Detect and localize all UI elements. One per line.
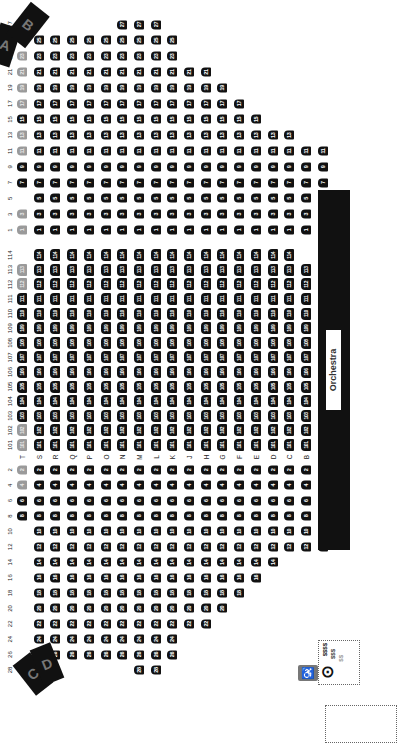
- seat[interactable]: 13: [284, 131, 294, 140]
- seat[interactable]: 15: [251, 115, 261, 124]
- seat[interactable]: 113: [234, 264, 244, 276]
- seat[interactable]: 107: [34, 351, 44, 363]
- seat[interactable]: 6: [50, 496, 60, 505]
- seat[interactable]: 104: [84, 395, 94, 407]
- seat[interactable]: 110: [268, 308, 278, 320]
- seat[interactable]: 101: [67, 439, 77, 451]
- seat[interactable]: 104: [117, 395, 127, 407]
- seat[interactable]: 22: [117, 619, 127, 628]
- seat[interactable]: 106: [268, 366, 278, 378]
- seat[interactable]: 2: [301, 465, 311, 474]
- seat[interactable]: 5: [268, 194, 278, 203]
- seat[interactable]: 20: [50, 604, 60, 613]
- seat[interactable]: 8: [217, 512, 227, 521]
- seat[interactable]: 107: [67, 351, 77, 363]
- seat[interactable]: 104: [234, 395, 244, 407]
- seat[interactable]: 10: [151, 527, 161, 536]
- seat[interactable]: 12: [201, 542, 211, 551]
- seat[interactable]: 18: [151, 589, 161, 598]
- seat[interactable]: 15: [17, 115, 27, 124]
- seat[interactable]: 10: [167, 527, 177, 536]
- seat[interactable]: 16: [151, 573, 161, 582]
- seat[interactable]: 107: [201, 351, 211, 363]
- seat[interactable]: 3: [17, 210, 27, 219]
- seat[interactable]: 5: [101, 194, 111, 203]
- seat[interactable]: 108: [301, 337, 311, 349]
- seat[interactable]: 108: [34, 337, 44, 349]
- seat[interactable]: 14: [251, 558, 261, 567]
- seat[interactable]: 107: [167, 351, 177, 363]
- seat[interactable]: 105: [34, 381, 44, 393]
- seat[interactable]: 2: [167, 465, 177, 474]
- seat[interactable]: 105: [201, 381, 211, 393]
- seat[interactable]: 16: [217, 573, 227, 582]
- seat[interactable]: 114: [101, 249, 111, 261]
- seat[interactable]: 19: [151, 83, 161, 92]
- seat[interactable]: 4: [50, 481, 60, 490]
- seat[interactable]: 111: [117, 293, 127, 305]
- seat[interactable]: 24: [34, 635, 44, 644]
- seat[interactable]: 108: [217, 337, 227, 349]
- seat[interactable]: 113: [84, 264, 94, 276]
- seat[interactable]: 110: [34, 308, 44, 320]
- seat[interactable]: 112: [184, 278, 194, 290]
- seat[interactable]: 107: [134, 351, 144, 363]
- seat[interactable]: 21: [50, 68, 60, 77]
- seat[interactable]: 112: [284, 278, 294, 290]
- seat[interactable]: 102: [301, 424, 311, 436]
- seat[interactable]: 112: [84, 278, 94, 290]
- seat[interactable]: 112: [34, 278, 44, 290]
- seat[interactable]: 111: [217, 293, 227, 305]
- seat[interactable]: 13: [184, 131, 194, 140]
- seat[interactable]: 4: [217, 481, 227, 490]
- seat[interactable]: 103: [301, 410, 311, 422]
- seat[interactable]: 110: [67, 308, 77, 320]
- seat[interactable]: 12: [34, 542, 44, 551]
- seat[interactable]: 17: [84, 99, 94, 108]
- seat[interactable]: 109: [167, 322, 177, 334]
- seat[interactable]: 12: [268, 542, 278, 551]
- seat[interactable]: 114: [284, 249, 294, 261]
- seat[interactable]: 26: [101, 650, 111, 659]
- seat[interactable]: 26: [167, 650, 177, 659]
- seat[interactable]: 18: [217, 589, 227, 598]
- seat[interactable]: 7: [301, 178, 311, 187]
- seat[interactable]: 4: [134, 481, 144, 490]
- seat[interactable]: 2: [184, 465, 194, 474]
- seat[interactable]: 101: [284, 439, 294, 451]
- seat[interactable]: 13: [117, 131, 127, 140]
- seat[interactable]: 9: [301, 162, 311, 171]
- seat[interactable]: 20: [217, 604, 227, 613]
- seat[interactable]: 101: [50, 439, 60, 451]
- seat[interactable]: 3: [251, 210, 261, 219]
- seat[interactable]: 112: [134, 278, 144, 290]
- seat[interactable]: 22: [34, 619, 44, 628]
- seat[interactable]: 19: [34, 83, 44, 92]
- seat[interactable]: 112: [251, 278, 261, 290]
- seat[interactable]: 109: [67, 322, 77, 334]
- seat[interactable]: 104: [151, 395, 161, 407]
- seat[interactable]: 101: [201, 439, 211, 451]
- seat[interactable]: 11: [184, 147, 194, 156]
- seat[interactable]: 1: [67, 226, 77, 235]
- seat[interactable]: 101: [84, 439, 94, 451]
- seat[interactable]: 15: [34, 115, 44, 124]
- seat[interactable]: 105: [184, 381, 194, 393]
- seat[interactable]: 114: [34, 249, 44, 261]
- seat[interactable]: 107: [268, 351, 278, 363]
- seat[interactable]: 7: [184, 178, 194, 187]
- seat[interactable]: 103: [151, 410, 161, 422]
- seat[interactable]: 13: [67, 131, 77, 140]
- seat[interactable]: 1: [201, 226, 211, 235]
- seat[interactable]: 5: [50, 194, 60, 203]
- seat[interactable]: 10: [268, 527, 278, 536]
- seat[interactable]: 23: [34, 52, 44, 61]
- seat[interactable]: 19: [217, 83, 227, 92]
- seat[interactable]: 4: [84, 481, 94, 490]
- seat[interactable]: 21: [117, 68, 127, 77]
- seat[interactable]: 21: [134, 68, 144, 77]
- seat[interactable]: 110: [17, 308, 27, 320]
- seat[interactable]: 103: [134, 410, 144, 422]
- seat[interactable]: 4: [167, 481, 177, 490]
- seat[interactable]: 109: [34, 322, 44, 334]
